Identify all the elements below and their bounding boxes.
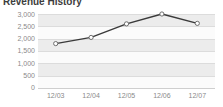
data-point[interactable] — [124, 22, 128, 26]
y-tick-label: 0 — [1, 84, 35, 91]
x-axis-tick-labels: 12/03 12/04 12/05 12/06 12/07 — [38, 92, 215, 104]
x-tick-label: 12/05 — [107, 92, 147, 100]
x-tick-label: 12/04 — [71, 92, 111, 100]
data-point[interactable] — [195, 21, 199, 25]
x-axis-line — [38, 88, 215, 89]
y-tick-label: 2,000 — [1, 35, 35, 42]
y-axis-tick-labels: 3,000 2,500 2,000 1,500 1,000 500 0 — [0, 0, 35, 107]
x-tick-label: 12/03 — [36, 92, 76, 100]
y-tick-label: 1,000 — [1, 60, 35, 67]
y-tick-label: 3,000 — [1, 11, 35, 18]
y-tick-label: 500 — [1, 72, 35, 79]
series-line — [56, 14, 198, 44]
x-tick-label: 12/06 — [142, 92, 182, 100]
plot-area — [38, 14, 215, 88]
data-point[interactable] — [54, 42, 58, 46]
y-tick-label: 1,500 — [1, 47, 35, 54]
y-tick-label: 2,500 — [1, 23, 35, 30]
data-point[interactable] — [160, 12, 164, 16]
series-revenue — [38, 14, 215, 88]
x-tick-label: 12/07 — [177, 92, 217, 100]
data-point[interactable] — [89, 35, 93, 39]
revenue-history-chart-widget: Revenue History 3,000 2,500 2,000 1,500 … — [0, 0, 223, 107]
